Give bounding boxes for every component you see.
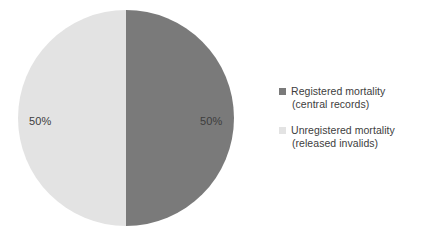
pie-slice-label-unregistered: 50% — [29, 116, 51, 127]
pie-chart-figure: 50% 50% Registered mortality (central re… — [0, 0, 427, 235]
legend-swatch-icon-registered — [279, 88, 286, 95]
legend-label-registered-line2: (central records) — [291, 98, 385, 111]
legend-label-registered: Registered mortality (central records) — [291, 85, 385, 111]
legend-label-unregistered-line2: (released invalids) — [291, 137, 395, 150]
pie-slice-label-registered: 50% — [200, 116, 222, 127]
legend-item-registered[interactable]: Registered mortality (central records) — [279, 85, 425, 111]
legend-label-unregistered-line1: Unregistered mortality — [291, 124, 395, 137]
legend-swatch-icon-unregistered — [279, 127, 286, 134]
chart-legend: Registered mortality (central records) U… — [279, 85, 425, 150]
legend-label-unregistered: Unregistered mortality (released invalid… — [291, 124, 395, 150]
legend-item-unregistered[interactable]: Unregistered mortality (released invalid… — [279, 124, 425, 150]
legend-label-registered-line1: Registered mortality — [291, 85, 385, 98]
